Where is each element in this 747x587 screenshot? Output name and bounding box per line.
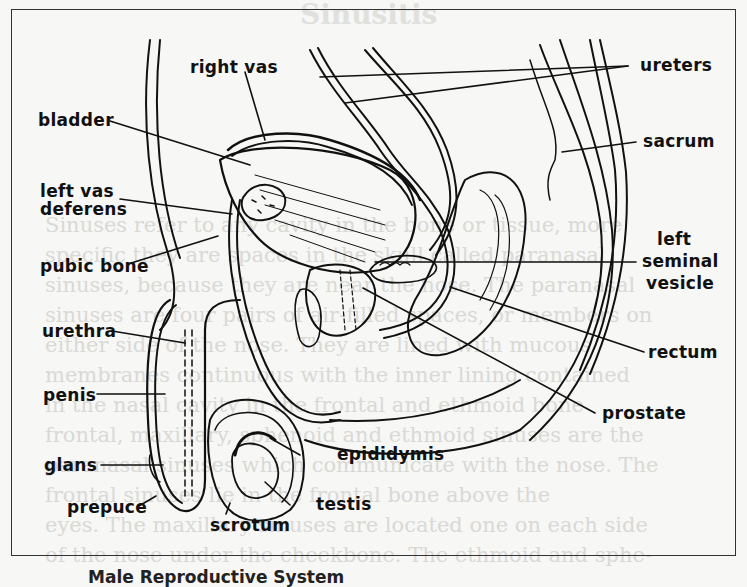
scrotum — [208, 400, 304, 521]
label-sacrum: sacrum — [643, 131, 715, 151]
label-epididymis: epididymis — [337, 444, 444, 464]
label-left-seminal-vesicle-line3: vesicle — [646, 273, 714, 293]
label-penis: penis — [43, 385, 96, 405]
pubic-bone — [242, 185, 286, 220]
label-left-vas-deferens-line2: deferens — [40, 199, 127, 219]
label-pubic-bone: pubic bone — [40, 256, 149, 276]
ureter-left — [365, 50, 450, 250]
symphysis — [295, 289, 321, 347]
label-urethra: urethra — [42, 321, 116, 341]
label-prepuce: prepuce — [67, 497, 147, 517]
abdominal-wall — [146, 40, 174, 330]
sacrum — [520, 45, 602, 430]
testis — [232, 444, 278, 499]
urethra-dashed — [185, 330, 192, 500]
prostate — [306, 265, 375, 336]
label-glans: glans — [44, 455, 97, 475]
label-prostate: prostate — [602, 403, 686, 423]
label-left-vas-deferens-line1: left vas — [40, 181, 114, 201]
label-left-seminal-vesicle-line1: left — [657, 229, 691, 249]
bladder — [220, 148, 415, 273]
label-rectum: rectum — [648, 342, 718, 362]
label-scrotum: scrotum — [210, 515, 290, 535]
figure-caption: Male Reproductive System — [88, 567, 344, 587]
left-vas-deferens — [229, 200, 340, 423]
right-vas-outline — [228, 133, 420, 200]
label-right-vas: right vas — [190, 57, 278, 77]
label-left-seminal-vesicle-line2: seminal — [642, 251, 719, 271]
label-bladder: bladder — [38, 110, 114, 130]
label-testis: testis — [316, 494, 372, 514]
label-ureters: ureters — [640, 55, 712, 75]
